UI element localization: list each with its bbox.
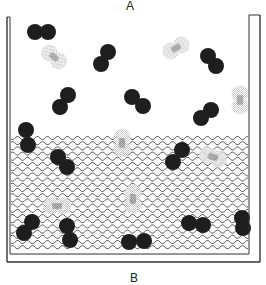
wave-line [0, 230, 259, 233]
molecule-gas [52, 87, 76, 115]
wave-line [0, 214, 259, 217]
molecule-liquid [121, 233, 152, 250]
ghost-molecule [125, 185, 142, 214]
molecule-gas [193, 102, 219, 126]
diagram-stage: A B [0, 0, 266, 285]
ghost-molecule [43, 198, 72, 215]
ghost-molecule [159, 33, 193, 62]
ghost-molecule [114, 129, 131, 158]
ghost-molecule [37, 41, 70, 73]
molecule-liquid [16, 214, 40, 241]
container-diagram [0, 0, 266, 285]
ghost-molecule [196, 144, 229, 170]
molecule-gas [93, 44, 116, 72]
molecule-gas [200, 48, 224, 74]
wave-line [0, 178, 259, 181]
molecule-gas [124, 89, 151, 114]
molecule-liquid [234, 210, 251, 236]
molecule-gas [27, 24, 56, 40]
wave-line [0, 142, 259, 145]
ghost-molecule [232, 86, 249, 115]
molecule-liquid [18, 122, 36, 153]
wave-line [0, 173, 259, 176]
wave-line [0, 168, 259, 171]
molecule-liquid [165, 142, 190, 170]
